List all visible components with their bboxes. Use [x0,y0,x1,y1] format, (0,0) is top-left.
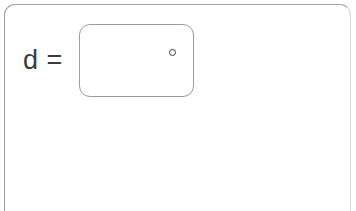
degree-circle-icon [169,49,176,56]
screenshot-root: d = [0,0,356,211]
equation-row: d = [23,24,194,97]
value-input-box[interactable] [79,24,194,97]
equation-label: d = [23,47,63,74]
panel-frame: d = [4,4,351,211]
